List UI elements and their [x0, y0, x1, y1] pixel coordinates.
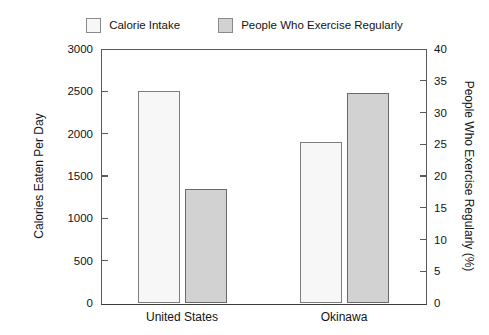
left-tick-label: 1000 — [67, 212, 93, 224]
left-tick-mark — [102, 175, 108, 176]
right-tick-label: 25 — [434, 138, 447, 150]
right-axis-tick-marks — [418, 49, 426, 303]
left-tick-label: 0 — [87, 297, 93, 309]
category-label-united-states: United States — [146, 310, 218, 325]
left-tick-label: 500 — [74, 255, 93, 267]
right-tick-mark — [420, 80, 426, 81]
bar-okinawa-calorie-intake — [300, 142, 342, 303]
left-tick-label: 3000 — [67, 43, 93, 55]
left-tick-mark — [102, 91, 108, 92]
right-tick-label: 35 — [434, 75, 447, 87]
left-tick-mark — [102, 218, 108, 219]
legend-label-calorie-intake: Calorie Intake — [109, 19, 180, 32]
left-tick-mark — [102, 133, 108, 134]
chart-legend: Calorie Intake People Who Exercise Regul… — [0, 14, 489, 36]
right-tick-label: 30 — [434, 107, 447, 119]
left-tick-label: 2500 — [67, 85, 93, 97]
legend-entry-calorie-intake: Calorie Intake — [86, 18, 180, 33]
legend-entry-exercise: People Who Exercise Regularly — [218, 18, 403, 33]
bar-united-states-people-who-exercise-regularly — [185, 189, 227, 303]
right-tick-label: 5 — [434, 265, 440, 277]
bar-okinawa-people-who-exercise-regularly — [347, 93, 389, 303]
right-tick-label: 15 — [434, 202, 447, 214]
right-tick-mark — [420, 239, 426, 240]
left-axis-tick-marks — [102, 49, 110, 303]
left-tick-mark — [102, 260, 108, 261]
right-tick-label: 0 — [434, 297, 440, 309]
right-tick-mark — [420, 112, 426, 113]
legend-swatch-calorie-intake-icon — [86, 18, 101, 33]
bar-united-states-calorie-intake — [138, 91, 180, 303]
right-tick-mark — [420, 207, 426, 208]
right-tick-label: 40 — [434, 43, 447, 55]
left-axis-title: Calories Eaten Per Day — [30, 49, 48, 303]
left-tick-label: 1500 — [67, 170, 93, 182]
category-label-okinawa: Okinawa — [321, 310, 368, 325]
left-tick-label: 2000 — [67, 128, 93, 140]
right-tick-label: 20 — [434, 170, 447, 182]
legend-label-exercise: People Who Exercise Regularly — [241, 19, 403, 32]
x-axis-category-labels: United StatesOkinawa — [101, 310, 425, 328]
legend-swatch-exercise-icon — [218, 18, 233, 33]
right-tick-mark — [420, 144, 426, 145]
right-axis-title: People Who Exercise Regularly (%) — [460, 49, 478, 303]
right-tick-mark — [420, 175, 426, 176]
right-tick-mark — [420, 271, 426, 272]
bars-layer — [101, 49, 425, 303]
right-tick-label: 10 — [434, 234, 447, 246]
